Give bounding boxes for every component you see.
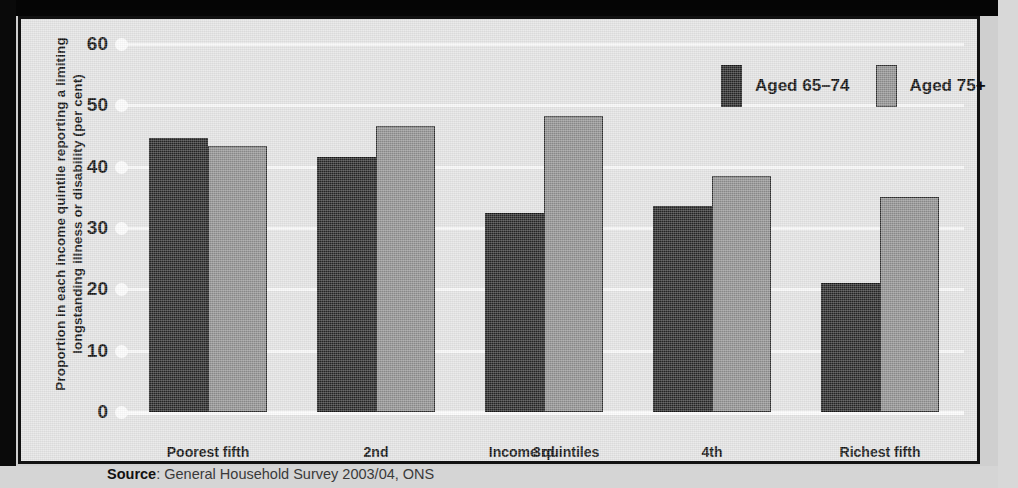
x-axis-title: Income quintiles: [124, 444, 964, 460]
bar-3-0: [653, 206, 712, 412]
y-axis-tick-dot: [115, 345, 128, 358]
bar-1-1: [376, 126, 435, 412]
bar-1-0: [317, 157, 376, 412]
scan-left-edge: [0, 0, 16, 470]
y-axis-tick-label: 30: [87, 217, 108, 239]
bar-2-0: [485, 213, 544, 412]
bar-3-1: [712, 176, 771, 412]
legend-item-0: Aged 65–74: [721, 65, 850, 107]
legend-swatch-icon: [721, 65, 742, 107]
bar-4-0: [821, 283, 880, 412]
bar-0-1: [208, 146, 267, 412]
y-axis-tick-label: 0: [97, 401, 108, 423]
y-axis-tick-dot: [115, 406, 128, 419]
y-axis-tick-dot: [115, 222, 128, 235]
y-axis-tick-label: 20: [87, 278, 108, 300]
source-text: : General Household Survey 2003/04, ONS: [156, 466, 434, 482]
chart-legend: Aged 65–74Aged 75+: [721, 65, 986, 107]
legend-label: Aged 65–74: [755, 76, 850, 96]
chart-panel: Proportion in each income quintile repor…: [18, 16, 980, 464]
gridline: [124, 43, 964, 46]
scan-right-edge: [998, 0, 1018, 488]
legend-swatch-icon: [876, 65, 897, 107]
y-axis-tick-label: 10: [87, 340, 108, 362]
scan-top-edge: [0, 0, 1018, 16]
figure-root: Proportion in each income quintile repor…: [0, 0, 1018, 488]
y-axis-title: Proportion in each income quintile repor…: [52, 14, 86, 414]
y-axis-tick-dot: [115, 283, 128, 296]
y-axis-tick-label: 60: [87, 33, 108, 55]
bar-0-0: [149, 138, 208, 412]
bar-2-1: [544, 116, 603, 412]
y-axis-tick-label: 50: [87, 94, 108, 116]
y-axis-tick-dot: [115, 99, 128, 112]
legend-item-1: Aged 75+: [876, 65, 986, 107]
source-note: Source: General Household Survey 2003/04…: [107, 466, 434, 482]
source-label: Source: [107, 466, 156, 482]
legend-label: Aged 75+: [910, 76, 986, 96]
y-axis-tick-dot: [115, 161, 128, 174]
y-axis-tick-dot: [115, 38, 128, 51]
bar-4-1: [880, 197, 939, 412]
y-axis-tick-label: 40: [87, 156, 108, 178]
